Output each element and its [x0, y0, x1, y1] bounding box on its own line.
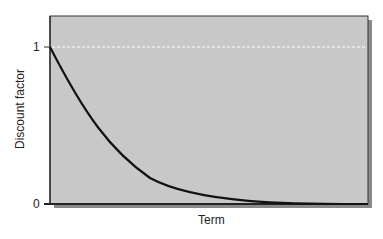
x-axis-label: Term [198, 213, 225, 227]
chart-canvas [0, 0, 383, 239]
y-axis-label: Discount factor [13, 61, 27, 157]
ytick-label-0: 0 [33, 197, 40, 211]
ytick-label-1: 1 [33, 40, 40, 54]
plot-area [50, 16, 368, 204]
